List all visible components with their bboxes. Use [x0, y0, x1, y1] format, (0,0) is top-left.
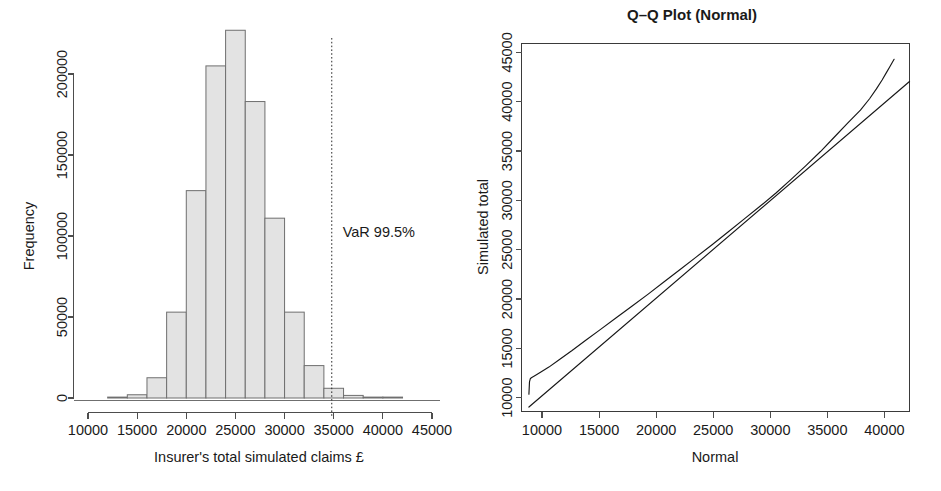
qq-panel: Q–Q Plot (Normal) 1000015000200002500030…: [470, 0, 941, 491]
qq-x-ticklabel-15000: 15000: [579, 422, 619, 438]
var-marker: VaR 99.5%: [332, 38, 415, 417]
histogram-y-axis: 0 50000 100000 150000 200000 Frequency: [21, 50, 74, 402]
qq-x-axis: 10000150002000025000300003500040000: [522, 412, 905, 439]
x-ticklabel-30000: 30000: [264, 422, 304, 438]
qq-svg: Q–Q Plot (Normal) 1000015000200002500030…: [470, 0, 941, 491]
qq-series-group: [529, 59, 910, 407]
histogram-bar: [324, 388, 344, 398]
qq-y-ticklabel-30000: 30000: [499, 180, 515, 220]
x-ticklabel-45000: 45000: [412, 422, 452, 438]
histogram-bar: [147, 378, 167, 398]
var-threshold-label: VaR 99.5%: [343, 224, 415, 240]
y-ticklabel-150000: 150000: [54, 131, 70, 179]
qq-x-ticklabel-20000: 20000: [636, 422, 676, 438]
histogram-bar: [245, 102, 265, 398]
x-ticklabel-40000: 40000: [363, 422, 403, 438]
qq-x-ticklabel-30000: 30000: [750, 422, 790, 438]
qq-x-axis-title: Normal: [692, 449, 739, 465]
histogram-bar: [226, 30, 246, 398]
qq-y-ticklabel-20000: 20000: [499, 279, 515, 319]
histogram-bar: [383, 397, 403, 398]
histogram-panel: 0 50000 100000 150000 200000 Frequency V…: [0, 0, 470, 491]
qq-y-ticklabel-10000: 10000: [499, 378, 515, 418]
histogram-bars: [108, 30, 403, 398]
histogram-x-axis-title: Insurer's total simulated claims £: [154, 449, 364, 465]
x-ticklabel-35000: 35000: [314, 422, 354, 438]
y-ticklabel-0: 0: [54, 394, 70, 402]
qq-x-ticklabel-35000: 35000: [807, 422, 847, 438]
histogram-bar: [265, 218, 285, 398]
histogram-bar: [304, 366, 324, 398]
qq-series-sample-quantiles: [529, 59, 894, 394]
x-ticklabel-25000: 25000: [215, 422, 255, 438]
y-ticklabel-50000: 50000: [54, 297, 70, 337]
y-ticklabel-200000: 200000: [54, 50, 70, 98]
qq-y-axis: 1000015000200002500030000350004000045000: [499, 32, 522, 418]
qq-x-ticklabel-10000: 10000: [522, 422, 562, 438]
figure-canvas: 0 50000 100000 150000 200000 Frequency V…: [0, 0, 941, 491]
qq-y-ticklabel-15000: 15000: [499, 328, 515, 368]
histogram-bar: [285, 312, 305, 398]
histogram-bar: [363, 397, 383, 398]
qq-plot-box: [522, 44, 910, 412]
qq-x-ticklabel-40000: 40000: [864, 422, 904, 438]
histogram-bar: [167, 312, 187, 398]
histogram-x-axis: 1000015000200002500030000350004000045000: [68, 413, 452, 439]
histogram-svg: 0 50000 100000 150000 200000 Frequency V…: [0, 0, 470, 491]
histogram-y-axis-title: Frequency: [21, 201, 37, 270]
qq-y-ticklabel-45000: 45000: [499, 32, 515, 72]
qq-y-ticklabel-40000: 40000: [499, 82, 515, 122]
y-ticklabel-100000: 100000: [54, 212, 70, 260]
qq-x-ticklabel-25000: 25000: [693, 422, 733, 438]
histogram-bar: [127, 395, 147, 398]
x-ticklabel-10000: 10000: [68, 422, 108, 438]
x-ticklabel-20000: 20000: [166, 422, 206, 438]
qq-plot-title: Q–Q Plot (Normal): [627, 6, 757, 23]
histogram-bar: [344, 395, 364, 398]
qq-y-ticklabel-35000: 35000: [499, 131, 515, 171]
x-ticklabel-15000: 15000: [117, 422, 157, 438]
histogram-bar: [108, 397, 128, 398]
qq-y-axis-title: Simulated total: [475, 179, 491, 275]
histogram-bar: [186, 191, 206, 398]
qq-y-ticklabel-25000: 25000: [499, 230, 515, 270]
qq-series-reference-line: [529, 81, 910, 407]
histogram-bar: [206, 66, 226, 398]
